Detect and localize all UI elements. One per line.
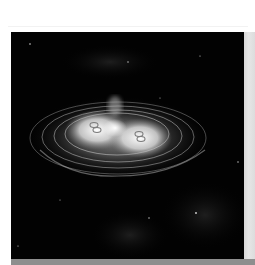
nebula-patch (60, 44, 160, 80)
galaxy-photo (11, 32, 244, 259)
frame-edge-right (244, 32, 255, 260)
nebula-patch (90, 210, 170, 259)
nebula-patch (160, 180, 244, 250)
page (0, 0, 255, 265)
frame-edge-bottom (11, 259, 255, 265)
galaxy-image (11, 32, 244, 259)
central-core (103, 119, 127, 137)
divider (8, 26, 248, 27)
